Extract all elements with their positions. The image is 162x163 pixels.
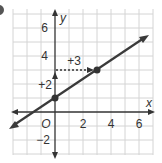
point-3-3: [94, 67, 101, 74]
y-axis-arrow-down-icon: [52, 152, 58, 159]
rise-label: +2: [38, 78, 52, 92]
grid: [13, 9, 153, 155]
tick-y-6: 6: [41, 21, 48, 35]
graph-line: [9, 35, 149, 129]
tick-x-6: 6: [136, 117, 143, 131]
y-axis-arrow-up-icon: [52, 9, 58, 16]
rise-arrow: [52, 72, 58, 79]
run-label: +3: [67, 54, 81, 68]
x-axis-label: x: [145, 96, 153, 110]
tick-y-neg2: −2: [36, 133, 50, 147]
x-axis-arrow-left-icon: [11, 109, 18, 115]
origin-label: O: [41, 117, 50, 131]
item-marker-icon: [0, 5, 4, 15]
point-0-1: [52, 95, 59, 102]
tick-y-4: 4: [41, 49, 48, 63]
y-axis-label: y: [59, 11, 67, 25]
tick-x-2: 2: [80, 117, 87, 131]
coordinate-graph: 6 4 −2 2 4 6 O y x +2 +3: [0, 0, 162, 163]
rise-arrow-icon: [52, 72, 58, 79]
tick-x-4: 4: [108, 117, 115, 131]
